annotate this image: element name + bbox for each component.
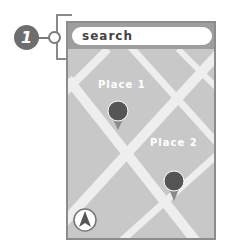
place-2-label: Place 2 — [150, 137, 198, 148]
callout-number: 1 — [14, 25, 39, 50]
callout-node — [48, 31, 61, 44]
callout-badge: 1 — [14, 25, 39, 50]
wireframe-diagram: 1 search — [0, 0, 228, 247]
top-bar: search — [68, 23, 214, 49]
phone-frame: search — [66, 21, 216, 240]
map-pin-icon — [108, 101, 128, 121]
place-1-label: Place 1 — [98, 79, 146, 90]
compass-button[interactable] — [74, 209, 96, 231]
map-pin-icon — [164, 171, 184, 191]
search-input[interactable]: search — [72, 27, 212, 45]
